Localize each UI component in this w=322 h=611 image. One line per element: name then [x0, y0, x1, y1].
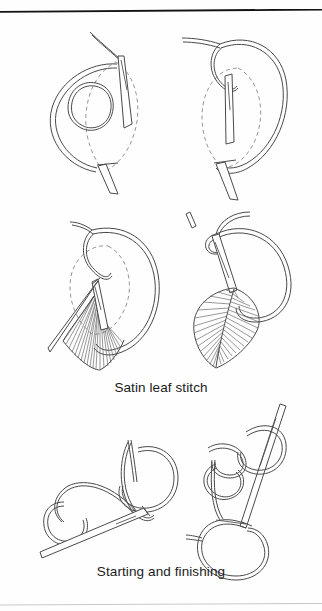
satin-stitch-fill-left [194, 290, 233, 367]
thread-crossing-loop [121, 442, 154, 521]
needle-point [98, 164, 118, 194]
caption-starting-and-finishing: Starting and finishing [0, 564, 322, 579]
thread-loop-upper-2 [122, 451, 174, 509]
needle [118, 56, 132, 128]
caption-satin-leaf-stitch: Satin leaf stitch [0, 380, 322, 395]
thread-tail-2 [218, 216, 250, 237]
starting-and-finishing-step-2 [186, 404, 308, 588]
thread-crossing-loop [211, 44, 238, 91]
scanned-page: Satin leaf stitch [0, 0, 322, 611]
thread-tail [128, 440, 134, 482]
thread-tail-2 [183, 42, 220, 48]
satin-leaf-step-2 [176, 24, 302, 200]
starting-and-finishing-step-1 [36, 432, 188, 564]
thread-loop-outer [50, 64, 117, 172]
small-thread-loop-2 [72, 86, 112, 128]
thread-tail [70, 222, 92, 230]
satin-leaf-step-1 [38, 26, 162, 194]
needle-point-fragment [186, 212, 196, 228]
satin-stitch-fan [64, 296, 123, 369]
small-thread-loop [68, 82, 113, 130]
page-rule-bottom [0, 603, 322, 606]
satin-leaf-step-4 [182, 212, 306, 374]
satin-leaf-step-3 [48, 222, 180, 374]
thread-crossing-loop-2 [124, 443, 154, 518]
needle [48, 281, 98, 352]
thread-crossing-loop-2 [86, 234, 111, 277]
thread-tail-2 [131, 440, 137, 482]
thread-loop-middle [204, 464, 244, 500]
thread-tail [90, 32, 120, 59]
thread-tail-2 [186, 539, 202, 541]
thread-crossing-loop [83, 230, 112, 279]
thread-tail-2 [92, 35, 122, 62]
page-rule-top [0, 9, 322, 13]
